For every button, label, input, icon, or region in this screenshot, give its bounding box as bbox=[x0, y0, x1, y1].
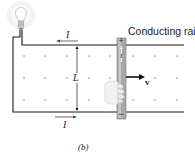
svg-text:×: × bbox=[23, 53, 26, 59]
light-bulb-icon bbox=[7, 1, 35, 30]
svg-text:×: × bbox=[66, 75, 69, 81]
length-label: L bbox=[72, 73, 80, 83]
svg-text:×: × bbox=[23, 75, 26, 81]
svg-text:×: × bbox=[44, 75, 47, 81]
svg-text:×: × bbox=[176, 97, 179, 103]
svg-text:×: × bbox=[154, 53, 157, 59]
velocity-label: v bbox=[145, 78, 150, 87]
rod-bottom-sign: − bbox=[119, 110, 124, 119]
current-top-label: I bbox=[66, 30, 69, 40]
circuit-diagram: ×××××××× ××××××× ××××××× bbox=[0, 0, 195, 155]
magnetic-field-markers: ×××××××× ××××××× ××××××× bbox=[23, 53, 179, 103]
hand-icon bbox=[105, 81, 124, 104]
current-arrow-bottom bbox=[55, 116, 77, 119]
svg-text:×: × bbox=[132, 53, 135, 59]
rod-current-label: I bbox=[120, 53, 122, 60]
bottom-rail bbox=[13, 30, 184, 112]
circuit-wires bbox=[13, 30, 184, 112]
svg-text:×: × bbox=[88, 53, 91, 59]
moving-rod[interactable] bbox=[117, 38, 126, 119]
svg-text:×: × bbox=[66, 97, 69, 103]
svg-text:×: × bbox=[44, 53, 47, 59]
svg-text:×: × bbox=[23, 97, 26, 103]
figure-caption: (b) bbox=[78, 143, 89, 152]
svg-text:×: × bbox=[109, 53, 112, 59]
current-bottom-label: I bbox=[63, 120, 66, 130]
velocity-arrow bbox=[126, 74, 145, 80]
svg-text:×: × bbox=[44, 97, 47, 103]
svg-text:×: × bbox=[88, 97, 91, 103]
svg-text:×: × bbox=[176, 53, 179, 59]
svg-text:×: × bbox=[154, 97, 157, 103]
svg-text:×: × bbox=[132, 97, 135, 103]
svg-text:×: × bbox=[109, 75, 112, 81]
conducting-rail-label: Conducting rail bbox=[128, 26, 195, 37]
svg-text:×: × bbox=[88, 75, 91, 81]
svg-text:×: × bbox=[66, 53, 69, 59]
svg-text:×: × bbox=[176, 75, 179, 81]
rod-top-sign: + bbox=[119, 36, 124, 45]
svg-text:×: × bbox=[154, 75, 157, 81]
